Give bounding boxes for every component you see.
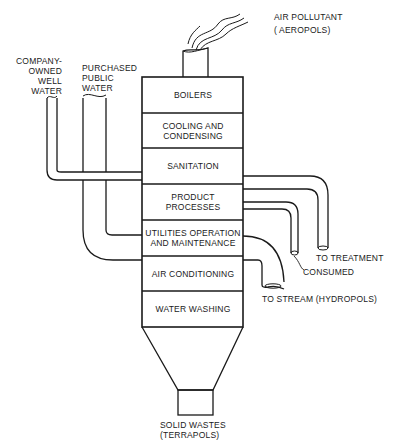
consumed-label: CONSUMED: [303, 267, 354, 277]
solid-waste-outlet: [178, 390, 213, 415]
smoke-icon: [188, 14, 248, 50]
public-line-1: PURCHASED: [82, 63, 137, 73]
section-label: AIR CONDITIONING: [152, 269, 235, 279]
air-line-2: ( AEROPOLS): [274, 25, 343, 35]
section-label: AND MAINTENANCE: [150, 238, 235, 248]
public-line-2: PUBLIC: [82, 73, 137, 83]
public-water-label: PURCHASED PUBLIC WATER: [82, 63, 137, 93]
section-product: PRODUCT PROCESSES: [143, 184, 243, 220]
to-treatment-label: TO TREATMENT: [316, 253, 384, 263]
well-line-3: WELL: [6, 76, 62, 86]
section-boilers: BOILERS: [143, 77, 243, 113]
well-water-label: COMPANY- OWNED WELL WATER: [6, 56, 62, 96]
public-water-pipe: [83, 94, 142, 260]
section-sanitation: SANITATION: [143, 148, 243, 184]
air-pollutant-label: AIR POLLUTANT ( AEROPOLS): [274, 12, 343, 35]
section-label: BOILERS: [174, 90, 212, 100]
well-line-2: OWNED: [6, 66, 62, 76]
section-label: WATER WASHING: [155, 304, 230, 314]
section-label: PRODUCT PROCESSES: [143, 192, 243, 212]
public-line-3: WATER: [82, 83, 137, 93]
section-label: UTILITIES OPERATION: [145, 228, 240, 238]
to-stream-label: TO STREAM (HYDROPOLS): [262, 294, 377, 304]
section-aircond: AIR CONDITIONING: [143, 256, 243, 291]
section-utilities: UTILITIES OPERATION AND MAINTENANCE: [143, 220, 243, 256]
section-cooling: COOLING AND CONDENSING: [143, 113, 243, 148]
section-label: COOLING AND: [162, 121, 223, 131]
solid-line-2: (TERRAPOLS): [160, 430, 226, 440]
well-line-1: COMPANY-: [6, 56, 62, 66]
solid-wastes-label: SOLID WASTES (TERRAPOLS): [160, 420, 226, 440]
hopper: [142, 327, 243, 390]
solid-line-1: SOLID WASTES: [160, 420, 226, 430]
section-washing: WATER WASHING: [143, 291, 243, 327]
treatment-pipe: [243, 176, 328, 250]
well-line-4: WATER: [6, 86, 62, 96]
air-line-1: AIR POLLUTANT: [274, 12, 343, 22]
section-label: CONDENSING: [163, 131, 223, 141]
stream-pipe: [243, 236, 284, 289]
section-label: SANITATION: [167, 161, 219, 171]
well-water-pipe: [47, 96, 142, 180]
